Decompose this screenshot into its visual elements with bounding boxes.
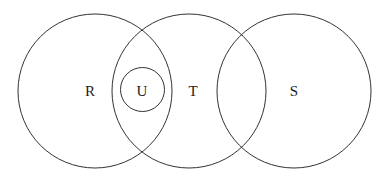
label-u: U bbox=[137, 83, 148, 99]
venn-diagram: R U T S bbox=[0, 0, 381, 178]
label-s: S bbox=[290, 83, 298, 99]
label-t: T bbox=[188, 83, 197, 99]
label-r: R bbox=[85, 83, 95, 99]
